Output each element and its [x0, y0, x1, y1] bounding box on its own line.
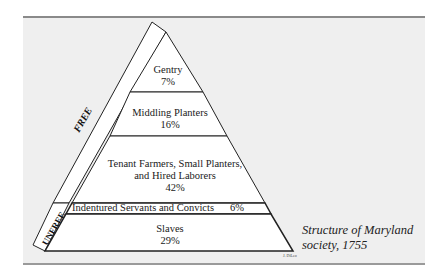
tier-slaves-label: Slaves 29%	[130, 223, 210, 247]
free-label: FREE	[71, 105, 95, 135]
tier-name: Indentured Servants and Convicts	[72, 202, 214, 213]
tier-indentured-label: Indentured Servants and Convicts6%	[72, 202, 267, 214]
tier-gentry-label: Gentry 7%	[136, 64, 200, 88]
tier-percent: 16%	[115, 119, 225, 131]
tier-name: Gentry	[136, 64, 200, 76]
tier-middling-label: Middling Planters 16%	[115, 107, 225, 131]
tier-percent: 29%	[130, 235, 210, 247]
tier-name-line1: Tenant Farmers, Small Planters,	[95, 158, 255, 170]
tier-percent: 42%	[95, 182, 255, 194]
diagram-caption: Structure of Maryland society, 1755	[302, 223, 413, 253]
tier-name-line2: and Hired Laborers	[95, 170, 255, 182]
tier-name: Middling Planters	[115, 107, 225, 119]
artist-credit: J. DiLeo	[283, 253, 297, 258]
caption-line-1: Structure of Maryland	[302, 223, 413, 238]
tier-percent: 6%	[230, 202, 244, 213]
caption-line-2: society, 1755	[302, 238, 413, 253]
tier-tenant-label: Tenant Farmers, Small Planters, and Hire…	[95, 158, 255, 194]
tier-name: Slaves	[130, 223, 210, 235]
tier-percent: 7%	[136, 76, 200, 88]
